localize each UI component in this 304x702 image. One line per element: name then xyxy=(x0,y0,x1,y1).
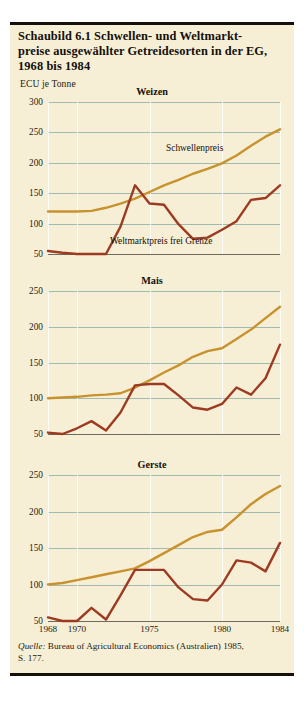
chart-panel-mais: Mais25020015010050 xyxy=(10,275,294,438)
source-citation: Quelle: Bureau of Agricultural Economics… xyxy=(18,641,288,664)
y-tick-label: 200 xyxy=(29,507,43,517)
x-tick-label: 1984 xyxy=(271,624,289,634)
y-tick-label: 150 xyxy=(29,543,43,553)
x-tick-label: 1970 xyxy=(68,624,86,634)
y-tick-label: 50 xyxy=(34,249,43,259)
y-tick-label: 200 xyxy=(29,322,43,332)
y-tick-label: 150 xyxy=(29,358,43,368)
y-tick-label: 250 xyxy=(29,470,43,480)
vertical-gridline xyxy=(280,291,281,434)
source-body: Bureau of Agricultural Economics (Austra… xyxy=(46,641,244,651)
chart-panel-weizen: Weizen30025020015010050SchwellenpreisWel… xyxy=(10,86,294,258)
line-threshold-price xyxy=(48,129,280,211)
y-tick-label: 100 xyxy=(29,580,43,590)
plot-area-gerste: 25020015010050 xyxy=(48,475,280,621)
y-tick-label: 250 xyxy=(29,286,43,296)
chart-panel-gerste: Gerste25020015010050 xyxy=(10,459,294,625)
chart-title-mais: Mais xyxy=(10,275,294,286)
y-tick-label: 100 xyxy=(29,219,43,229)
vertical-gridline xyxy=(280,102,281,254)
y-tick-label: 100 xyxy=(29,393,43,403)
y-tick-label: 200 xyxy=(29,158,43,168)
y-tick-label: 150 xyxy=(29,188,43,198)
chart-title-weizen: Weizen xyxy=(10,86,294,97)
figure-title-line-2: preise ausgewählter Getreidesorten in de… xyxy=(18,44,286,59)
annotation-schwellenpreis: Schwellenpreis xyxy=(166,143,223,153)
figure-title: Schaubild 6.1 Schwellen- und Weltmarkt- … xyxy=(18,29,286,75)
top-rule xyxy=(10,22,294,25)
y-tick-label: 250 xyxy=(29,127,43,137)
y-tick-label: 50 xyxy=(34,429,43,439)
x-axis-tick-row: 19681970197519801984 xyxy=(48,624,280,638)
x-tick-label: 1980 xyxy=(213,624,231,634)
plot-area-weizen: 30025020015010050SchwellenpreisWeltmarkt… xyxy=(48,102,280,254)
x-tick-label: 1968 xyxy=(39,624,57,634)
series-lines xyxy=(48,291,280,436)
annotation-weltmarktpreis: Weltmarktpreis frei Grenze xyxy=(110,236,212,246)
line-world-market-price xyxy=(48,345,280,434)
series-lines xyxy=(48,475,280,623)
bottom-rule xyxy=(10,673,294,676)
x-tick-label: 1975 xyxy=(140,624,158,634)
plot-area-mais: 25020015010050 xyxy=(48,291,280,434)
line-world-market-price xyxy=(48,543,280,621)
figure-title-line-3: 1968 bis 1984 xyxy=(18,59,286,74)
source-line-2: S. 177. xyxy=(18,653,288,665)
chart-title-gerste: Gerste xyxy=(10,459,294,470)
vertical-gridline xyxy=(280,475,281,621)
figure-title-line-1: Schaubild 6.1 Schwellen- und Weltmarkt- xyxy=(18,29,286,44)
figure-panel: Schaubild 6.1 Schwellen- und Weltmarkt- … xyxy=(10,22,294,676)
series-lines xyxy=(48,102,280,256)
y-tick-label: 300 xyxy=(29,97,43,107)
source-label: Quelle: xyxy=(18,641,46,651)
